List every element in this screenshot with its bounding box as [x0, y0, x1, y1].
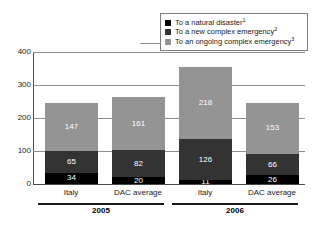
- y-axis-labels: 400 300 200 100 0: [0, 0, 31, 233]
- y-tick-400: 400: [5, 48, 31, 56]
- group-label-2005: 2005: [38, 206, 164, 215]
- legend-footnote-1: 1: [243, 16, 246, 22]
- x-axis-line: [33, 184, 305, 185]
- y-tick-200: 200: [5, 114, 31, 122]
- segment-natural-disaster: 11: [179, 180, 232, 184]
- legend-label-natural-disaster: To a natural disaster1: [175, 19, 246, 27]
- legend-leader-line: [140, 43, 160, 44]
- legend-label-ongoing-emergency-text: To an ongoing complex emergency: [175, 37, 291, 46]
- segment-new-emergency: 126: [179, 139, 232, 181]
- gridline-400: [33, 52, 305, 53]
- legend-label-new-emergency-text: To a new complex emergency: [175, 27, 274, 36]
- legend-swatch-natural-disaster-icon: [165, 20, 171, 26]
- plot-area: 147 65 34 161 82 20 218 126 11 153 66 26: [33, 52, 305, 184]
- bar-italy-2005[interactable]: 147 65 34: [45, 103, 98, 184]
- bar-italy-2006[interactable]: 218 126 11: [179, 67, 232, 184]
- x-label-dac-average-2006: DAC average: [232, 188, 312, 197]
- group-rule-2005: [38, 203, 164, 205]
- y-tick-0: 0: [5, 180, 31, 188]
- legend-item-ongoing-emergency[interactable]: To an ongoing complex emergency3: [165, 38, 303, 46]
- legend-item-natural-disaster[interactable]: To a natural disaster1: [165, 19, 303, 27]
- segment-natural-disaster: 20: [112, 177, 165, 184]
- segment-ongoing-emergency: 161: [112, 97, 165, 150]
- legend-label-new-emergency: To a new complex emergency2: [175, 28, 277, 36]
- y-tick-100: 100: [5, 147, 31, 155]
- group-rule-2006: [172, 203, 298, 205]
- group-label-2006: 2006: [172, 206, 298, 215]
- legend-label-ongoing-emergency: To an ongoing complex emergency3: [175, 38, 294, 46]
- segment-ongoing-emergency: 153: [246, 103, 299, 154]
- legend-footnote-3: 3: [291, 35, 294, 41]
- legend-swatch-new-emergency-icon: [165, 29, 171, 35]
- segment-ongoing-emergency: 218: [179, 67, 232, 139]
- legend-swatch-ongoing-emergency-icon: [165, 39, 171, 45]
- gridline-300: [33, 85, 305, 86]
- segment-new-emergency: 82: [112, 150, 165, 177]
- legend-footnote-2: 2: [274, 26, 277, 32]
- segment-natural-disaster: 34: [45, 173, 98, 184]
- legend-label-natural-disaster-text: To a natural disaster: [175, 18, 243, 27]
- stacked-bar-chart: 400 300 200 100 0 147 65 34 161 82 20 21…: [0, 0, 319, 233]
- chart-legend: To a natural disaster1 To a new complex …: [160, 13, 308, 51]
- y-tick-300: 300: [5, 81, 31, 89]
- segment-new-emergency: 66: [246, 154, 299, 176]
- segment-natural-disaster: 26: [246, 175, 299, 184]
- bar-dac-average-2006[interactable]: 153 66 26: [246, 103, 299, 184]
- segment-ongoing-emergency: 147: [45, 103, 98, 152]
- segment-new-emergency: 65: [45, 151, 98, 173]
- bar-dac-average-2005[interactable]: 161 82 20: [112, 97, 165, 184]
- legend-item-new-emergency[interactable]: To a new complex emergency2: [165, 28, 303, 36]
